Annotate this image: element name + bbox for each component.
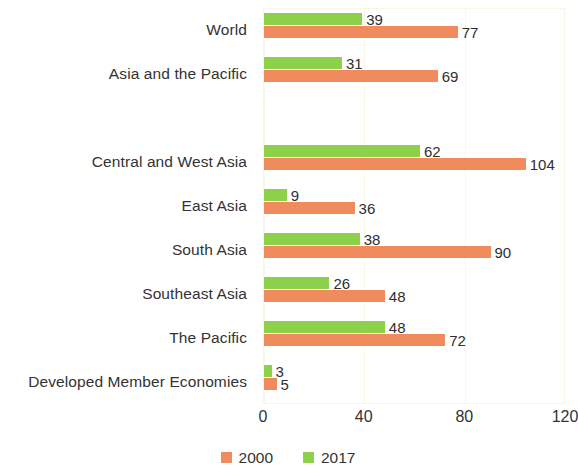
bar-rect	[264, 334, 445, 346]
bar-value-label: 48	[389, 320, 406, 335]
bar-value-label: 36	[359, 201, 376, 216]
bar-2017[interactable]: 9	[264, 189, 299, 201]
category-label: South Asia	[0, 228, 255, 272]
bar-value-label: 104	[530, 157, 555, 172]
legend-item-2017[interactable]: 2017	[303, 450, 355, 466]
bar-rect	[264, 158, 526, 170]
x-axis: 04080120	[263, 408, 565, 434]
bar-rect	[264, 13, 362, 25]
bar-value-label: 69	[442, 69, 459, 84]
bar-value-label: 9	[291, 188, 299, 203]
bar-group: 2648	[264, 273, 564, 317]
category-label: Southeast Asia	[0, 272, 255, 316]
bar-rect	[264, 246, 491, 258]
bar-group: 62104	[264, 141, 564, 185]
category-label: Central and West Asia	[0, 140, 255, 184]
bar-2017[interactable]: 39	[264, 13, 383, 25]
bar-2017[interactable]: 48	[264, 321, 405, 333]
bar-rect	[264, 365, 272, 377]
category-label: The Pacific	[0, 316, 255, 360]
bar-group: 936	[264, 185, 564, 229]
x-axis-tick-label: 0	[259, 408, 268, 426]
gridline	[564, 9, 565, 403]
plot-area: 397731696210493638902648487235	[263, 8, 565, 404]
chart-legend: 20002017	[0, 450, 576, 466]
bar-rect	[264, 57, 342, 69]
bar-2017[interactable]: 31	[264, 57, 363, 69]
legend-label: 2000	[239, 450, 273, 466]
bar-rect	[264, 189, 287, 201]
bar-value-label: 90	[495, 245, 512, 260]
bar-2000[interactable]: 5	[264, 378, 289, 390]
bar-2000[interactable]: 36	[264, 202, 375, 214]
legend-swatch-icon	[303, 452, 314, 463]
bar-rect	[264, 378, 277, 390]
bar-rect	[264, 145, 420, 157]
bar-2000[interactable]: 69	[264, 70, 458, 82]
bar-value-label: 39	[366, 12, 383, 27]
bar-2000[interactable]: 90	[264, 246, 511, 258]
x-axis-tick-label: 40	[355, 408, 373, 426]
category-label: Developed Member Economies	[0, 360, 255, 404]
bar-value-label: 62	[424, 144, 441, 159]
category-label: World	[0, 8, 255, 52]
bar-group: 3169	[264, 53, 564, 97]
bar-value-label: 38	[364, 232, 381, 247]
bar-rect	[264, 321, 385, 333]
bar-value-label: 77	[462, 25, 479, 40]
bar-rect	[264, 70, 438, 82]
bar-rect	[264, 26, 458, 38]
legend-item-2000[interactable]: 2000	[221, 450, 273, 466]
category-label: East Asia	[0, 184, 255, 228]
bar-2000[interactable]: 104	[264, 158, 555, 170]
legend-label: 2017	[321, 450, 355, 466]
bar-value-label: 72	[449, 333, 466, 348]
x-axis-tick-label: 120	[552, 408, 578, 426]
bar-group: 3890	[264, 229, 564, 273]
category-label-empty	[0, 96, 255, 140]
bar-rect	[264, 202, 355, 214]
legend-swatch-icon	[221, 452, 232, 463]
bar-2017[interactable]: 62	[264, 145, 441, 157]
bar-2000[interactable]: 48	[264, 290, 405, 302]
bar-2017[interactable]: 38	[264, 233, 380, 245]
bar-value-label: 31	[346, 56, 363, 71]
bar-rect	[264, 233, 360, 245]
bar-group: 35	[264, 361, 564, 405]
category-axis-labels: WorldAsia and the PacificCentral and Wes…	[0, 8, 255, 404]
x-axis-tick-label: 80	[455, 408, 473, 426]
bar-value-label: 48	[389, 289, 406, 304]
bar-group: 3977	[264, 9, 564, 53]
category-label: Asia and the Pacific	[0, 52, 255, 96]
bar-rect	[264, 290, 385, 302]
bar-rect	[264, 277, 329, 289]
bar-value-label: 26	[333, 276, 350, 291]
bar-2000[interactable]: 72	[264, 334, 466, 346]
bar-value-label: 5	[281, 377, 289, 392]
bar-2000[interactable]: 77	[264, 26, 478, 38]
bar-group: 4872	[264, 317, 564, 361]
bar-2017[interactable]: 26	[264, 277, 350, 289]
